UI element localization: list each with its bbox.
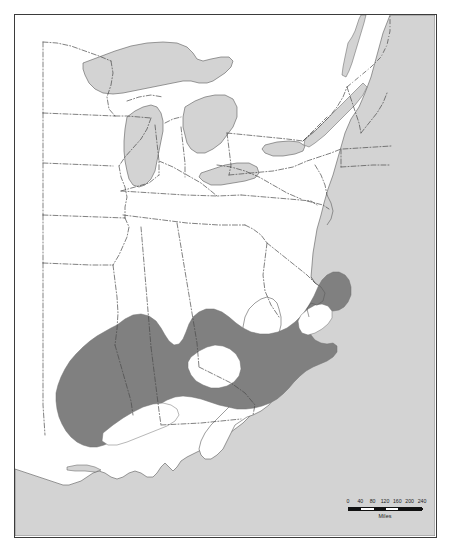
- scale-tick-160: 160: [393, 498, 402, 505]
- scale-segment-1: [349, 508, 361, 510]
- species-distribution-map-figure: 0 40 80 120 160 200 240 Miles: [0, 0, 452, 550]
- scale-tick-200: 200: [405, 498, 414, 505]
- scale-bar: 0 40 80 120 160 200 240 Miles: [339, 498, 431, 532]
- scale-tick-80: 80: [370, 498, 376, 505]
- scale-bar-track: [348, 507, 422, 511]
- scale-tick-40: 40: [357, 498, 363, 505]
- scale-tick-240: 240: [418, 498, 427, 505]
- scale-segment-3: [398, 508, 410, 510]
- scale-segment-4: [411, 508, 423, 510]
- scale-segment-2: [374, 508, 386, 510]
- scale-tick-120: 120: [381, 498, 390, 505]
- scale-bar-unit-label: Miles: [339, 512, 431, 520]
- map-frame: [14, 14, 437, 538]
- scale-tick-0: 0: [347, 498, 350, 505]
- map-canvas: [15, 15, 435, 536]
- scale-bar-tick-labels: 0 40 80 120 160 200 240: [339, 498, 431, 507]
